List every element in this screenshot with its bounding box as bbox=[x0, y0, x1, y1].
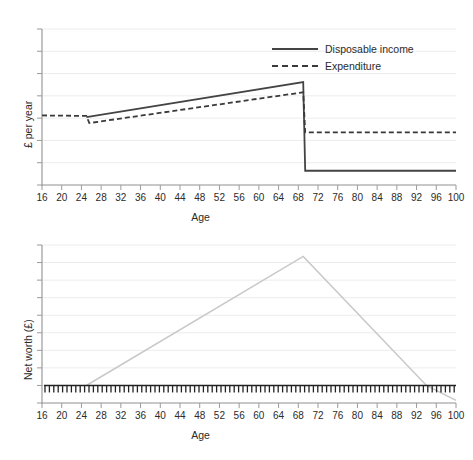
x-tick-label: 100 bbox=[448, 192, 465, 203]
series-line-expenditure bbox=[42, 92, 456, 132]
x-tick-label: 96 bbox=[431, 192, 442, 203]
x-tick-label: 76 bbox=[332, 410, 343, 421]
legend-item-expenditure: Expenditure bbox=[272, 57, 414, 74]
x-tick-label: 44 bbox=[174, 192, 185, 203]
x-tick-label: 16 bbox=[36, 410, 47, 421]
x-tick-label: 68 bbox=[293, 410, 304, 421]
y-axis-label-bottom: Net worth (£) bbox=[22, 319, 34, 380]
chart-panel-net-worth: Net worth (£) 16202428323640444852566064… bbox=[0, 228, 473, 460]
x-tick-label: 40 bbox=[155, 192, 166, 203]
x-axis-label-top: Age bbox=[0, 211, 437, 223]
x-tick-label: 56 bbox=[234, 410, 245, 421]
x-tick-label: 36 bbox=[135, 410, 146, 421]
x-tick-label: 92 bbox=[411, 192, 422, 203]
legend-item-disposable-income: Disposable income bbox=[272, 40, 414, 57]
x-tick-label: 52 bbox=[214, 192, 225, 203]
x-tick-label: 36 bbox=[135, 192, 146, 203]
x-tick-label: 16 bbox=[36, 192, 47, 203]
x-tick-label: 44 bbox=[174, 410, 185, 421]
x-tick-label: 20 bbox=[56, 410, 67, 421]
figure-two-panel-lifecycle: £ per year 16202428323640444852566064687… bbox=[0, 0, 473, 460]
x-tick-label: 76 bbox=[332, 192, 343, 203]
x-tick-label: 92 bbox=[411, 410, 422, 421]
legend-top: Disposable income Expenditure bbox=[272, 40, 414, 74]
x-tick-label: 20 bbox=[56, 192, 67, 203]
x-axis-tick-labels-top: 1620242832364044485256606468727680848892… bbox=[0, 192, 473, 206]
x-tick-label: 24 bbox=[76, 410, 87, 421]
x-tick-label: 24 bbox=[76, 192, 87, 203]
x-tick-label: 96 bbox=[431, 410, 442, 421]
zero-hatched-line bbox=[44, 385, 456, 392]
x-tick-label: 100 bbox=[448, 410, 465, 421]
x-tick-label: 84 bbox=[372, 410, 383, 421]
x-tick-label: 60 bbox=[253, 192, 264, 203]
x-axis-tick-labels-bottom: 1620242832364044485256606468727680848892… bbox=[0, 410, 473, 424]
x-tick-label: 60 bbox=[253, 410, 264, 421]
x-tick-label: 48 bbox=[194, 410, 205, 421]
x-tick-label: 80 bbox=[352, 192, 363, 203]
x-tick-label: 32 bbox=[115, 410, 126, 421]
x-tick-label: 28 bbox=[96, 192, 107, 203]
series-line-disposable-income bbox=[86, 82, 456, 171]
x-tick-label: 84 bbox=[372, 192, 383, 203]
x-tick-label: 88 bbox=[391, 192, 402, 203]
x-tick-label: 28 bbox=[96, 410, 107, 421]
series-line-net-worth bbox=[86, 256, 456, 400]
x-tick-label: 64 bbox=[273, 410, 284, 421]
x-tick-label: 56 bbox=[234, 192, 245, 203]
legend-swatch-solid-line bbox=[272, 43, 318, 55]
x-tick-label: 48 bbox=[194, 192, 205, 203]
x-tick-label: 40 bbox=[155, 410, 166, 421]
x-tick-label: 52 bbox=[214, 410, 225, 421]
x-tick-label: 72 bbox=[312, 192, 323, 203]
legend-label-disposable-income: Disposable income bbox=[325, 43, 414, 55]
x-tick-label: 64 bbox=[273, 192, 284, 203]
x-axis-label-bottom: Age bbox=[0, 429, 437, 441]
x-tick-label: 72 bbox=[312, 410, 323, 421]
x-tick-label: 68 bbox=[293, 192, 304, 203]
chart-panel-income-expenditure: £ per year 16202428323640444852566064687… bbox=[0, 0, 473, 228]
legend-swatch-dashed-line bbox=[272, 60, 318, 72]
x-tick-label: 88 bbox=[391, 410, 402, 421]
net-worth-plot bbox=[0, 228, 473, 460]
x-tick-label: 32 bbox=[115, 192, 126, 203]
x-tick-label: 80 bbox=[352, 410, 363, 421]
legend-label-expenditure: Expenditure bbox=[325, 60, 381, 72]
y-axis-label-top: £ per year bbox=[22, 101, 34, 148]
